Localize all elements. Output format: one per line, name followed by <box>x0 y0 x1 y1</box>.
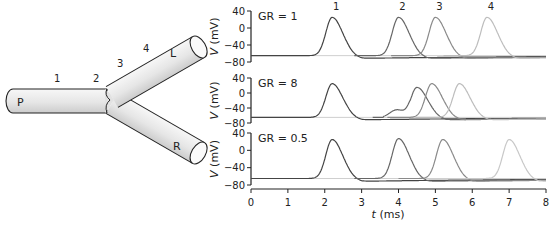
x-tick-label: 0 <box>248 197 254 208</box>
voltage-trace-4 <box>466 140 546 182</box>
left-daughter-segment <box>106 33 211 107</box>
voltage-trace-2 <box>354 17 546 58</box>
peak-label: 3 <box>436 1 442 12</box>
voltage-trace-panels: 400−40−80V (mV)GR = 11234400−40−80V (mV)… <box>208 1 549 208</box>
x-tick-label: 5 <box>432 197 438 208</box>
panel-label: GR = 8 <box>258 77 297 90</box>
y-tick-label: −40 <box>224 40 245 51</box>
x-tick-label: 6 <box>469 197 475 208</box>
voltage-trace-2 <box>373 87 546 119</box>
x-tick-label: 3 <box>358 197 364 208</box>
y-tick-label: 0 <box>239 145 245 156</box>
y-tick-label: 40 <box>232 128 245 139</box>
y-tick-label: −80 <box>224 180 245 191</box>
panel-2: 400−40−80V (mV)GR = 8 <box>208 73 546 129</box>
panel-label: GR = 0.5 <box>258 132 308 145</box>
voltage-trace-3 <box>387 84 546 120</box>
right-label: R <box>173 140 181 153</box>
x-axis-label: t (ms) <box>372 208 405 221</box>
site-label-2: 2 <box>93 73 99 84</box>
x-tick-label: 7 <box>506 197 512 208</box>
peak-label: 1 <box>333 1 339 12</box>
y-tick-label: 0 <box>239 88 245 99</box>
figure: P L R 1 2 3 4 400−40−80V (mV)GR = 112344… <box>0 0 553 225</box>
voltage-trace-1 <box>251 17 546 58</box>
y-tick-label: −80 <box>224 57 245 68</box>
y-axis-label: V (mV) <box>208 140 221 178</box>
y-tick-label: 0 <box>239 23 245 34</box>
y-tick-label: 40 <box>232 73 245 84</box>
panel-3: 400−40−80V (mV)GR = 0.5012345678 <box>208 128 549 209</box>
voltage-trace-3 <box>391 17 546 58</box>
panel-1: 400−40−80V (mV)GR = 11234 <box>208 1 546 68</box>
left-label: L <box>170 47 177 60</box>
site-label-1: 1 <box>54 73 60 84</box>
voltage-trace-2 <box>354 139 546 182</box>
site-label-3: 3 <box>117 58 123 69</box>
panel-label: GR = 1 <box>258 10 297 23</box>
peak-label: 4 <box>488 1 494 12</box>
x-tick-label: 2 <box>322 197 328 208</box>
site-label-4: 4 <box>143 43 149 54</box>
y-tick-label: −40 <box>224 162 245 173</box>
parent-label: P <box>17 96 24 109</box>
x-tick-label: 1 <box>285 197 291 208</box>
y-axis-label: V (mV) <box>208 18 221 56</box>
y-axis-label: V (mV) <box>208 82 221 120</box>
voltage-trace-4 <box>444 17 547 58</box>
x-tick-label: 4 <box>395 197 401 208</box>
peak-label: 2 <box>399 1 405 12</box>
y-tick-label: −40 <box>224 103 245 114</box>
branch-diagram: P L R 1 2 3 4 <box>6 33 211 167</box>
voltage-trace-3 <box>399 140 547 182</box>
y-tick-label: 40 <box>232 6 245 17</box>
voltage-trace-4 <box>416 84 547 120</box>
x-tick-label: 8 <box>543 197 549 208</box>
